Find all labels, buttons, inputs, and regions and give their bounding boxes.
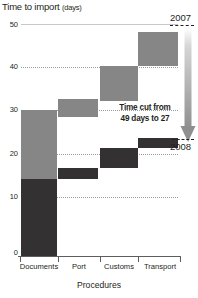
year-label-2007: 2007: [170, 12, 191, 23]
annotation-line-2: 49 days to 27: [106, 113, 184, 124]
year-2008-dash: [172, 139, 194, 140]
bar-2007-documents: [21, 110, 57, 179]
plot-area: [21, 24, 178, 256]
year-2007-dash: [170, 25, 194, 26]
ytick-label-40: 40: [2, 62, 18, 71]
x-axis-title: Procedures: [0, 280, 198, 290]
bar-2007-port: [58, 99, 98, 117]
year-label-2008: 2008: [170, 141, 191, 152]
bar-2007-transport: [138, 32, 178, 66]
x-axis-label-documents: Documents: [19, 262, 59, 271]
gridline-50: [21, 24, 178, 25]
trend-arrow: [180, 28, 196, 144]
x-axis-label-customs: Customs: [99, 262, 139, 271]
bar-2008-port: [58, 168, 98, 179]
bar-2008-customs: [100, 148, 138, 168]
chart-container: Time to import (days) 50 40 30 20 10 0 T…: [0, 0, 198, 298]
bar-2008-documents: [21, 179, 57, 256]
ytick-label-50: 50: [2, 20, 18, 29]
chart-title: Time to import (days): [2, 1, 82, 12]
ytick-label-20: 20: [2, 149, 18, 158]
x-axis-label-transport: Transport: [138, 262, 182, 271]
annotation-time-cut: Time cut from 49 days to 27: [106, 102, 184, 124]
ytick-label-30: 30: [2, 105, 18, 114]
ytick-label-0: 0: [2, 248, 18, 257]
ytick-label-10: 10: [2, 192, 18, 201]
annotation-line-1: Time cut from: [106, 102, 184, 113]
bar-2007-customs: [100, 66, 138, 101]
chart-title-text: Time to import: [2, 1, 60, 12]
x-axis-label-port: Port: [59, 262, 99, 271]
chart-title-units: (days): [62, 3, 82, 12]
